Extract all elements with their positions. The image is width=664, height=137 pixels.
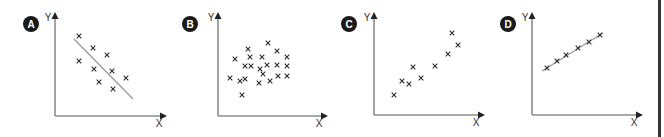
panel-badge-c: C	[341, 16, 357, 32]
data-point-x-icon	[246, 47, 251, 52]
data-point-x-icon	[285, 64, 290, 69]
y-axis-arrow-icon	[371, 12, 378, 19]
badge-label: A	[27, 19, 34, 30]
data-point-x-icon	[97, 80, 102, 85]
data-point-x-icon	[92, 67, 97, 72]
data-point-x-icon	[261, 72, 266, 77]
data-point-x-icon	[275, 49, 280, 54]
y-axis-arrow-icon	[215, 12, 222, 19]
data-point-x-icon	[456, 43, 461, 48]
data-point-x-icon	[228, 76, 233, 81]
badge-label: B	[186, 19, 193, 30]
right-border-divider	[658, 0, 661, 137]
y-axis-label: Y	[208, 12, 215, 23]
data-point-x-icon	[258, 67, 263, 72]
data-point-x-icon	[110, 69, 115, 74]
data-point-x-icon	[233, 57, 238, 62]
y-axis-label: Y	[45, 12, 52, 23]
badge-label: C	[345, 19, 352, 30]
x-axis-label: X	[631, 117, 638, 128]
panel-d: DYX	[500, 12, 643, 128]
data-point-x-icon	[400, 79, 405, 84]
data-point-x-icon	[260, 55, 265, 60]
x-axis-label: X	[316, 118, 323, 129]
data-point-x-icon	[276, 74, 281, 79]
data-point-x-icon	[111, 87, 116, 92]
panel-badge-d: D	[500, 16, 516, 32]
data-point-x-icon	[240, 93, 245, 98]
data-point-x-icon	[257, 81, 262, 86]
trend-line	[74, 39, 133, 99]
panel-a: AYX	[23, 12, 167, 129]
data-point-x-icon	[91, 46, 96, 51]
data-point-x-icon	[243, 64, 248, 69]
data-point-x-icon	[285, 55, 290, 60]
data-point-x-icon	[450, 31, 455, 36]
data-point-x-icon	[392, 93, 397, 98]
x-axis-label: X	[156, 118, 163, 129]
trend-line	[542, 33, 603, 71]
panel-badge-b: B	[182, 16, 198, 32]
y-axis-arrow-icon	[52, 12, 59, 19]
panel-c: CYX	[341, 12, 485, 128]
data-point-x-icon	[433, 64, 438, 69]
data-point-x-icon	[124, 76, 129, 81]
data-point-x-icon	[249, 64, 254, 69]
data-point-x-icon	[238, 79, 243, 84]
data-point-x-icon	[268, 79, 273, 84]
data-point-x-icon	[77, 34, 82, 39]
badge-label: D	[504, 19, 511, 30]
panel-b: BYX	[182, 12, 328, 129]
data-point-x-icon	[285, 74, 290, 79]
data-point-x-icon	[266, 41, 271, 46]
data-point-x-icon	[248, 55, 253, 60]
data-point-x-icon	[275, 63, 280, 68]
data-point-x-icon	[407, 82, 412, 87]
data-point-x-icon	[265, 63, 270, 68]
data-point-x-icon	[598, 33, 603, 38]
y-axis-arrow-icon	[529, 12, 536, 19]
scatter-panels: AYXBYXCYXDYX	[0, 0, 664, 137]
data-point-x-icon	[411, 65, 416, 70]
data-point-x-icon	[77, 59, 82, 64]
data-point-x-icon	[105, 53, 110, 58]
data-point-x-icon	[243, 77, 248, 82]
y-axis-label: Y	[522, 12, 529, 23]
x-axis-label: X	[473, 117, 480, 128]
y-axis-label: Y	[364, 12, 371, 23]
data-point-x-icon	[545, 66, 550, 71]
data-point-x-icon	[419, 76, 424, 81]
panel-badge-a: A	[23, 16, 39, 32]
data-point-x-icon	[446, 52, 451, 57]
